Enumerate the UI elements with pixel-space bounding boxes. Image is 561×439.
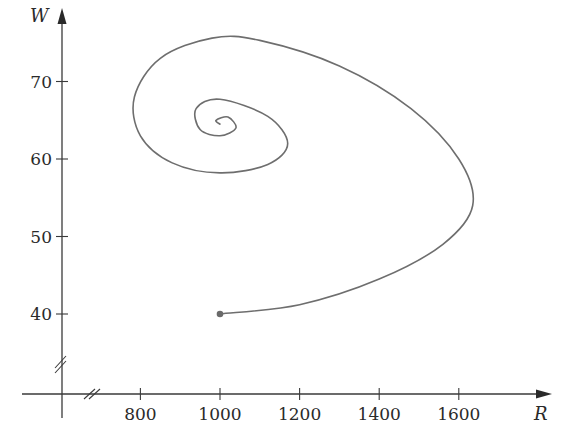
- y-tick-label: 70: [30, 72, 52, 92]
- x-axis-label: R: [533, 403, 548, 424]
- y-tick-label: 60: [30, 149, 52, 169]
- y-axis-break-icon: [55, 356, 66, 373]
- y-tick-label: 50: [30, 227, 52, 247]
- start-point-marker: [217, 311, 224, 318]
- x-tick-label: 1400: [358, 404, 401, 424]
- x-tick-label: 1600: [437, 404, 480, 424]
- phase-plot: 800100012001400160040506070 W R: [0, 0, 561, 439]
- tick-labels: 800100012001400160040506070: [30, 72, 480, 425]
- y-tick-label: 40: [30, 304, 52, 324]
- axis-ticks: [56, 82, 459, 401]
- trajectory-curve: [133, 36, 473, 314]
- x-tick-label: 800: [124, 404, 156, 424]
- y-axis-label: W: [30, 5, 50, 26]
- y-axis-arrow-icon: [58, 8, 67, 24]
- x-tick-label: 1200: [278, 404, 321, 424]
- x-tick-label: 1000: [198, 404, 241, 424]
- x-axis-arrow-icon: [536, 390, 552, 399]
